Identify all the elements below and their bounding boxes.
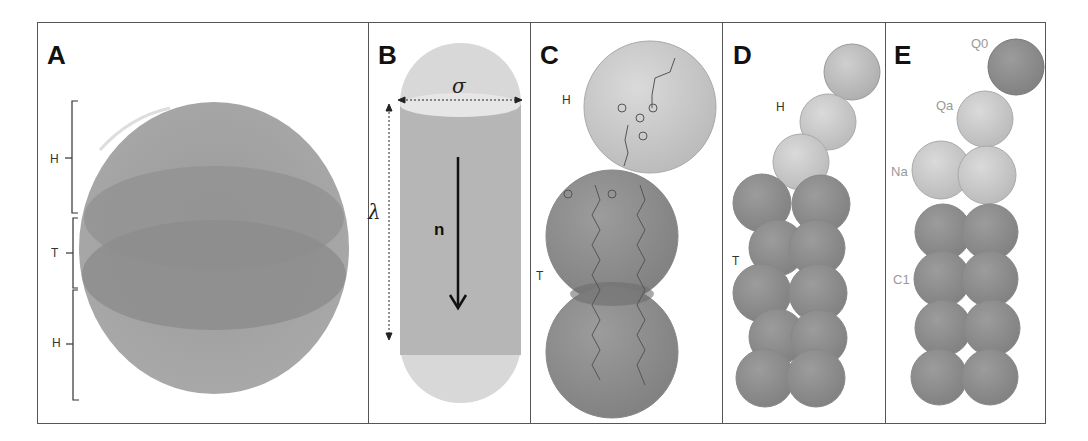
bracket-tail-label: T [51, 246, 58, 260]
bead-label-qa: Qa [936, 98, 953, 113]
bead-label-q0: Q0 [971, 36, 988, 51]
panel-a-sphere [79, 102, 349, 394]
bead-label-c1: C1 [893, 272, 910, 287]
panel-a-brackets [65, 101, 79, 400]
panel-c-label: C [540, 40, 559, 71]
bead-label-na: Na [891, 164, 908, 179]
panel-d-tail-label: T [732, 254, 739, 268]
panel-c-tail-label: T [536, 269, 543, 283]
lambda-label: λ [368, 200, 381, 224]
panel-d-beads [733, 44, 880, 407]
panel-e-beads [911, 39, 1044, 405]
panel-d-label: D [733, 40, 752, 71]
director-label: n [434, 220, 444, 240]
panel-d-head-label: H [776, 100, 785, 114]
bracket-head-top-label: H [50, 152, 59, 166]
panel-e-label: E [894, 40, 911, 71]
panel-c-beads [546, 41, 716, 418]
panel-b-label: B [378, 40, 397, 71]
sigma-label: σ [452, 74, 466, 98]
bracket-head-bottom-label: H [52, 336, 61, 350]
panel-c-head-label: H [562, 93, 571, 107]
panel-a-label: A [47, 40, 66, 71]
